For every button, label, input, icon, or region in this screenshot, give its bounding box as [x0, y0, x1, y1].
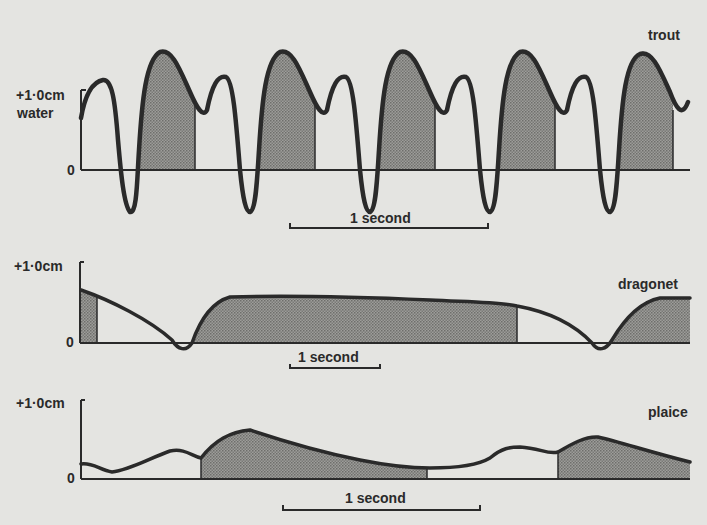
plaice-title: plaice: [648, 404, 688, 420]
trout-panel: trout +1·0cm water 0 1 second: [16, 27, 690, 229]
dragonet-title: dragonet: [618, 276, 678, 292]
trout-y-zero-label: 0: [67, 162, 75, 178]
dragonet-scale-label: 1 second: [298, 349, 359, 365]
plaice-y-zero-label: 0: [67, 470, 75, 486]
dragonet-y-top-label: +1·0cm: [14, 258, 63, 274]
trout-y-top-label: +1·0cm: [16, 87, 65, 103]
plaice-scale-label: 1 second: [345, 490, 406, 506]
plaice-y-top-label: +1·0cm: [16, 395, 65, 411]
trout-scale-label: 1 second: [350, 210, 411, 226]
dragonet-panel: dragonet +1·0cm 0 1 second: [14, 258, 690, 369]
plaice-panel: plaice +1·0cm 0 1 second: [16, 395, 690, 511]
respiratory-pressure-figure: trout +1·0cm water 0 1 second dragonet: [0, 0, 707, 525]
trout-title: trout: [648, 27, 680, 43]
dragonet-y-zero-label: 0: [66, 334, 74, 350]
trout-y-unit-label: water: [16, 105, 54, 121]
